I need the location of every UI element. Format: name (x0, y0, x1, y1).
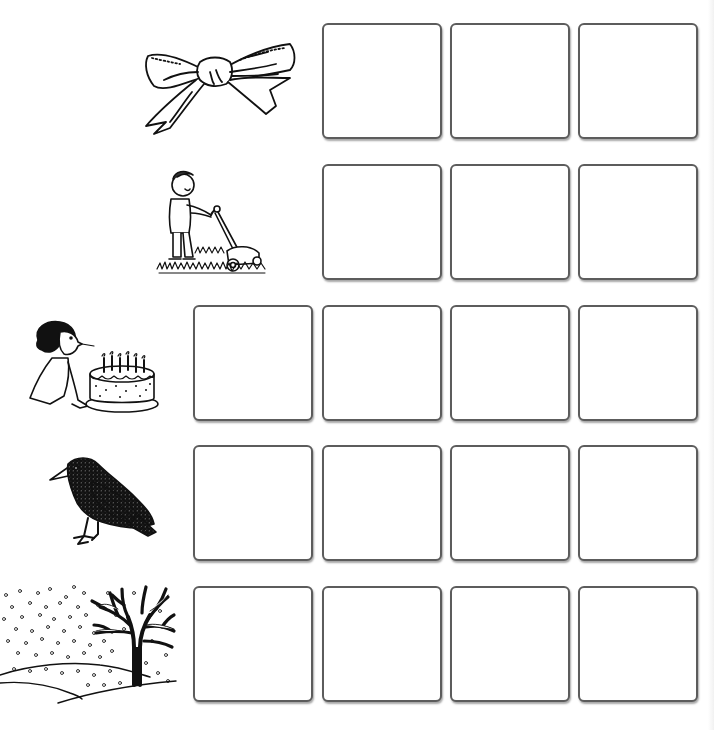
sound-box-2[interactable] (322, 305, 442, 421)
boy-mowing-lawn-icon (155, 165, 270, 280)
sound-box-1[interactable] (322, 164, 442, 280)
sound-box-2[interactable] (322, 445, 442, 561)
sound-box-1[interactable] (193, 305, 313, 421)
sound-box-2[interactable] (450, 23, 570, 139)
worksheet-row-mow (0, 163, 714, 281)
sound-box-4[interactable] (578, 305, 698, 421)
sound-box-1[interactable] (193, 586, 313, 702)
sound-box-4[interactable] (578, 445, 698, 561)
worksheet-row-crow (0, 444, 714, 562)
snowy-tree-landscape-icon (0, 585, 180, 705)
girl-blowing-candles-icon (24, 318, 160, 418)
sound-box-1[interactable] (322, 23, 442, 139)
worksheet-row-blow (0, 304, 714, 422)
sound-box-3[interactable] (578, 23, 698, 139)
sound-box-4[interactable] (578, 586, 698, 702)
sound-box-3[interactable] (578, 164, 698, 280)
sound-box-3[interactable] (450, 445, 570, 561)
crow-bird-icon (48, 452, 158, 552)
sound-box-3[interactable] (450, 586, 570, 702)
sound-box-3[interactable] (450, 305, 570, 421)
sound-boxes-worksheet (0, 0, 714, 730)
worksheet-row-snow (0, 585, 714, 703)
worksheet-row-bow (0, 22, 714, 140)
sound-box-1[interactable] (193, 445, 313, 561)
page-edge-shading (708, 0, 714, 730)
bow-icon (140, 30, 305, 140)
sound-box-2[interactable] (322, 586, 442, 702)
sound-box-2[interactable] (450, 164, 570, 280)
